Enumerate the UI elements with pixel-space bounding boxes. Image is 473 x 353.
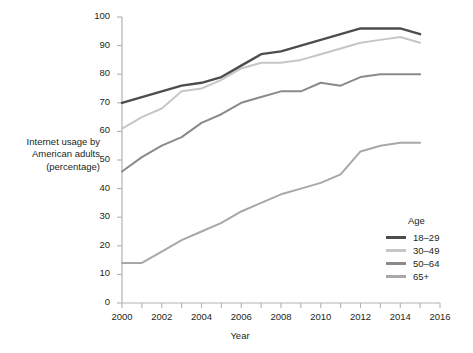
legend-items: 18–2930–4950–6465+ <box>386 231 472 283</box>
legend-item: 30–49 <box>386 244 472 257</box>
y-axis-tick-label: 80 <box>84 67 110 78</box>
legend-swatch-icon <box>386 275 406 278</box>
x-axis-tick-label: 2012 <box>344 311 378 322</box>
y-axis-tick-label: 30 <box>84 210 110 221</box>
x-axis-tick-label: 2010 <box>304 311 338 322</box>
y-axis-tick-label: 60 <box>84 124 110 135</box>
y-axis-tick-label: 0 <box>84 296 110 307</box>
x-axis-label: Year <box>180 330 300 341</box>
legend-swatch-icon <box>386 262 406 265</box>
legend-item: 50–64 <box>386 257 472 270</box>
legend-item: 18–29 <box>386 231 472 244</box>
y-axis-tick-label: 20 <box>84 239 110 250</box>
line-chart-plot <box>0 0 473 353</box>
x-axis-tick-label: 2014 <box>383 311 417 322</box>
legend-item-label: 50–64 <box>413 258 439 269</box>
y-axis-tick-label: 70 <box>84 96 110 107</box>
y-axis-tick-label: 40 <box>84 182 110 193</box>
legend-item-label: 30–49 <box>413 245 439 256</box>
series-line-65+ <box>122 143 420 263</box>
legend-item-label: 65+ <box>413 271 429 282</box>
x-axis-tick-label: 2008 <box>264 311 298 322</box>
x-axis-tick-label: 2000 <box>105 311 139 322</box>
x-axis-tick-label: 2016 <box>423 311 457 322</box>
legend-swatch-icon <box>386 236 406 239</box>
x-axis-tick-label: 2006 <box>224 311 258 322</box>
legend-item-label: 18–29 <box>413 232 439 243</box>
legend-item: 65+ <box>386 270 472 283</box>
x-axis-tick-label: 2004 <box>185 311 219 322</box>
y-axis-tick-label: 100 <box>84 10 110 21</box>
y-axis-tick-label: 10 <box>84 267 110 278</box>
y-axis-tick-label: 90 <box>84 39 110 50</box>
x-axis-tick-label: 2002 <box>145 311 179 322</box>
chart-container: Internet usage by American adults (perce… <box>0 0 473 353</box>
series-line-30-49 <box>122 37 420 129</box>
y-axis-label-line-1: Internet usage by <box>8 136 100 148</box>
legend-title: Age <box>408 215 472 226</box>
legend-swatch-icon <box>386 249 406 252</box>
y-axis-tick-label: 50 <box>84 153 110 164</box>
chart-legend: Age 18–2930–4950–6465+ <box>386 215 472 283</box>
